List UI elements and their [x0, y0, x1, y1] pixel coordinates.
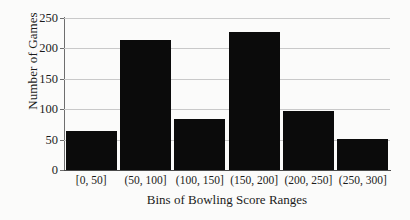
- plot-area: [64, 18, 390, 170]
- y-axis-tick-label: 100: [16, 103, 58, 116]
- y-axis-tick-labels: 050100150200250: [12, 0, 58, 220]
- y-axis-tick-mark: [60, 170, 64, 171]
- y-axis-tick-mark: [60, 18, 64, 19]
- histogram-chart: Number of Games 050100150200250 [0, 50](…: [0, 0, 410, 220]
- y-axis-tick-mark: [60, 140, 64, 141]
- gridline: [64, 79, 390, 80]
- y-axis-tick-mark: [60, 109, 64, 110]
- x-axis-tick-label: (100, 150]: [169, 173, 231, 187]
- gridline: [64, 18, 390, 19]
- bar: [337, 139, 388, 170]
- x-axis-title: Bins of Bowling Score Ranges: [64, 193, 390, 206]
- y-axis-tick-label: 0: [16, 164, 58, 177]
- y-axis-tick-mark: [60, 48, 64, 49]
- x-axis-line: [63, 170, 391, 171]
- y-axis-tick-label: 50: [16, 134, 58, 147]
- x-axis-tick-labels: [0, 50](50, 100](100, 150](150, 200](200…: [64, 173, 390, 189]
- bar: [66, 131, 117, 170]
- y-axis-tick-mark: [60, 79, 64, 80]
- x-axis-tick-label: (200, 250]: [277, 173, 339, 187]
- x-axis-tick-label: [0, 50]: [60, 173, 122, 187]
- bar: [229, 32, 280, 170]
- y-axis-tick-label: 200: [16, 42, 58, 55]
- bar: [283, 111, 334, 170]
- x-axis-tick-label: (150, 200]: [223, 173, 285, 187]
- bar: [120, 40, 171, 170]
- x-axis-tick-label: (250, 300]: [332, 173, 394, 187]
- bar: [174, 119, 225, 170]
- x-axis-tick-label: (50, 100]: [114, 173, 176, 187]
- gridline: [64, 109, 390, 110]
- gridline: [64, 48, 390, 49]
- y-axis-tick-label: 150: [16, 73, 58, 86]
- y-axis-tick-label: 250: [16, 12, 58, 25]
